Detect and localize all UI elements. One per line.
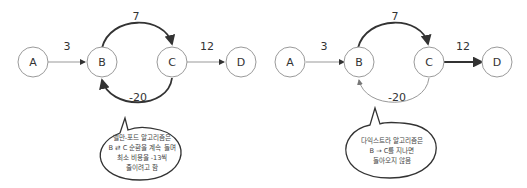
node-d: D	[482, 47, 512, 77]
svg-text:D: D	[493, 56, 501, 69]
edge-b-c	[102, 23, 172, 48]
node-c: C	[414, 47, 444, 77]
node-b: B	[344, 47, 374, 77]
node-a: A	[275, 47, 305, 77]
bubble-line-4: 줄이려고 함	[126, 163, 158, 172]
bubble-line-1: 다익스트라 알고리즘은	[361, 136, 423, 145]
weight-c-b: -20	[129, 91, 147, 104]
weight-b-c: 7	[392, 10, 399, 23]
bellman-ford-diagram: 3 7 -20 12 A B C D 벨만-포드 알고리즘은 B ⇄ C 순환을…	[18, 10, 256, 180]
bubble-line-2: B → C를 지나면	[370, 146, 415, 155]
svg-text:A: A	[29, 56, 37, 69]
node-d: D	[226, 47, 256, 77]
bubble-line-1: 벨만-포드 알고리즘은	[113, 133, 171, 142]
diagram-canvas: 3 7 -20 12 A B C D 벨만-포드 알고리즘은 B ⇄ C 순환을…	[0, 0, 527, 188]
svg-text:C: C	[168, 56, 176, 69]
svg-text:A: A	[286, 56, 294, 69]
svg-text:C: C	[425, 56, 433, 69]
node-a: A	[18, 47, 48, 77]
node-b: B	[87, 47, 117, 77]
bubble-line-3: 돌아오지 않음	[373, 156, 411, 165]
weight-a-b: 3	[321, 40, 328, 53]
bubble-line-3: 최소 비용을 -13씩	[117, 153, 168, 162]
weight-c-d: 12	[456, 40, 470, 53]
dijkstra-diagram: 3 7 -20 12 A B C D 다익스트라 알고리즘은 B → C를 지나…	[275, 10, 512, 178]
node-c: C	[157, 47, 187, 77]
bubble-line-2: B ⇄ C 순환을 계속 돌며	[108, 143, 175, 152]
weight-a-b: 3	[64, 40, 71, 53]
svg-text:B: B	[98, 56, 106, 69]
weight-c-b: -20	[388, 91, 406, 104]
weight-b-c: 7	[133, 10, 140, 23]
edge-b-c	[358, 23, 428, 48]
weight-c-d: 12	[200, 40, 214, 53]
svg-text:D: D	[237, 56, 245, 69]
svg-text:B: B	[355, 56, 363, 69]
